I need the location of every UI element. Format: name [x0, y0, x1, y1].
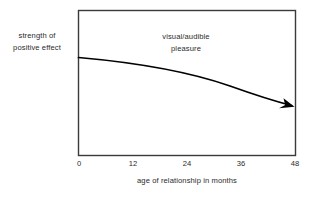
- plot-annotation-line-2: pleasure: [140, 43, 232, 55]
- chart-figure: strength of positive effect visual/audib…: [0, 0, 319, 199]
- x-tick-label-12: 12: [123, 159, 143, 168]
- x-tick-label-0: 0: [69, 159, 89, 168]
- x-tick-label-48: 48: [285, 159, 305, 168]
- x-tick-label-36: 36: [231, 159, 251, 168]
- x-axis-label: age of relationship in months: [78, 176, 296, 185]
- y-axis-label-line-1: strength of: [0, 30, 74, 42]
- plot-annotation: visual/audible pleasure: [140, 31, 232, 54]
- plot-annotation-line-1: visual/audible: [140, 31, 232, 43]
- y-axis-label-line-2: positive effect: [0, 42, 74, 54]
- x-tick-label-24: 24: [177, 159, 197, 168]
- y-axis-label: strength of positive effect: [0, 30, 74, 53]
